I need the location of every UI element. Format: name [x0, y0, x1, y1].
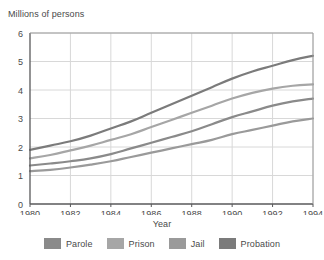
chart-figure: Millions of persons 0123456 198019821984…	[0, 0, 324, 260]
legend-item-probation[interactable]: Probation	[219, 238, 280, 249]
legend-item-jail[interactable]: Jail	[169, 238, 205, 249]
legend-swatch-icon	[169, 238, 186, 249]
y-tick-label: 5	[18, 57, 23, 67]
y-tick-label: 4	[18, 86, 23, 96]
chart-legend: ParolePrisonJailProbation	[0, 238, 324, 249]
series-lines	[30, 56, 313, 171]
x-axis-title: Year	[0, 219, 324, 229]
legend-label: Parole	[66, 239, 93, 249]
grid-lines	[30, 33, 313, 204]
x-tick-label: 1992	[262, 209, 282, 215]
series-line-probation	[30, 56, 313, 150]
legend-item-parole[interactable]: Parole	[44, 238, 93, 249]
plot-area: 0123456 19801982198419861988199019921994	[0, 0, 324, 215]
y-tick-label: 2	[18, 143, 23, 153]
x-tick-label: 1986	[141, 209, 161, 215]
series-line-jail	[30, 119, 313, 172]
legend-swatch-icon	[107, 238, 124, 249]
line-chart-svg: 0123456 19801982198419861988199019921994	[0, 0, 324, 215]
x-tick-label: 1990	[222, 209, 242, 215]
series-line-parole	[30, 99, 313, 166]
legend-item-prison[interactable]: Prison	[107, 238, 155, 249]
y-tick-labels: 0123456	[18, 29, 23, 210]
x-tick-label: 1994	[303, 209, 323, 215]
legend-swatch-icon	[219, 238, 236, 249]
y-tick-label: 1	[18, 171, 23, 181]
legend-label: Jail	[191, 239, 205, 249]
x-tick-label: 1980	[20, 209, 40, 215]
x-tick-labels: 19801982198419861988199019921994	[20, 209, 323, 215]
y-tick-label: 6	[18, 29, 23, 39]
x-tick-label: 1988	[182, 209, 202, 215]
legend-label: Probation	[241, 239, 280, 249]
x-tick-label: 1984	[101, 209, 121, 215]
y-tick-label: 3	[18, 114, 23, 124]
legend-label: Prison	[129, 239, 155, 249]
x-tick-label: 1982	[60, 209, 80, 215]
legend-swatch-icon	[44, 238, 61, 249]
y-tick-label: 0	[18, 200, 23, 210]
